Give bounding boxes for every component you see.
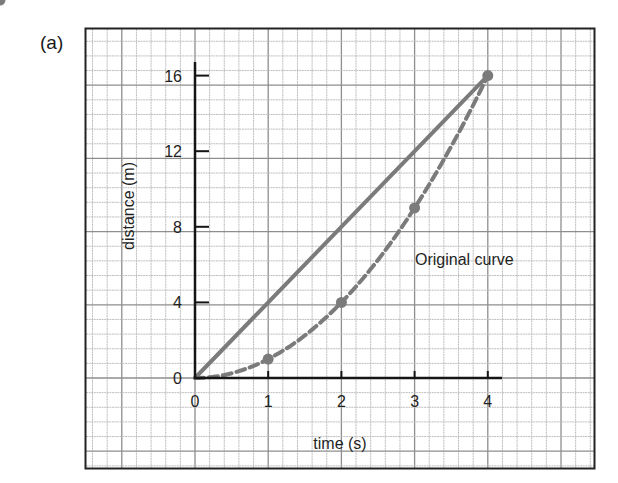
y-tick-label: 16: [164, 68, 182, 85]
original-curve-annotation: Original curve: [415, 251, 514, 268]
y-tick-label: 12: [164, 143, 182, 160]
x-tick-label: 1: [264, 393, 273, 410]
data-point-marker: [263, 354, 274, 365]
x-tick-label: 4: [483, 393, 492, 410]
x-tick-label: 0: [191, 393, 200, 410]
data-series: [0, 0, 493, 378]
y-tick-label: 8: [173, 219, 182, 236]
y-tick-label: 0: [173, 370, 182, 387]
axis-labels: 048121601234time (s)distance (m)Original…: [120, 68, 514, 452]
data-point-marker: [482, 70, 493, 81]
x-tick-label: 2: [337, 393, 346, 410]
data-point-marker: [336, 297, 347, 308]
data-point-marker: [409, 202, 420, 213]
data-point-marker: [0, 0, 6, 6]
y-axis-label: distance (m): [120, 162, 137, 250]
y-tick-label: 4: [173, 294, 182, 311]
x-tick-label: 3: [410, 393, 419, 410]
distance-time-chart: 048121601234time (s)distance (m)Original…: [0, 0, 618, 483]
x-axis-label: time (s): [313, 435, 366, 452]
